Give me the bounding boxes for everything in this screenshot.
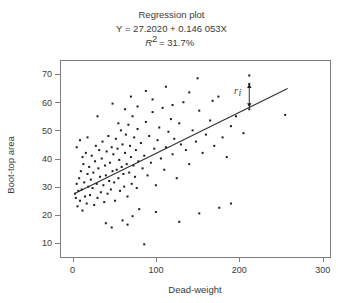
data-point (230, 203, 232, 205)
data-point (87, 136, 89, 138)
data-point (138, 208, 140, 210)
data-point (117, 177, 119, 179)
data-point (107, 193, 109, 195)
data-point (176, 177, 178, 179)
data-point (136, 187, 138, 189)
data-point (119, 190, 121, 192)
data-point (150, 162, 152, 164)
residual-label: r (234, 85, 238, 96)
data-point (172, 153, 174, 155)
data-point (77, 205, 79, 207)
data-point (142, 167, 144, 169)
data-point (112, 103, 114, 105)
chart-canvas: Regression plot Y = 27.2020 + 0.146 053X… (0, 0, 343, 303)
data-point (213, 145, 215, 147)
data-point (198, 212, 200, 214)
data-point (75, 197, 77, 199)
data-point (112, 153, 114, 155)
data-point (102, 184, 104, 186)
data-point (113, 181, 115, 183)
scatter-points (74, 74, 286, 245)
data-point (126, 163, 128, 165)
data-point (123, 186, 125, 188)
data-point (122, 219, 124, 221)
regression-equation: Y = 27.2020 + 0.146 053X (116, 23, 227, 34)
data-point (158, 127, 160, 129)
data-point (195, 141, 197, 143)
data-point (112, 170, 114, 172)
x-axis-ticks: 0100200300 (70, 257, 330, 275)
data-point (132, 115, 134, 117)
data-point (79, 139, 81, 141)
residual-arrow-head-top (247, 84, 251, 88)
data-point (155, 211, 157, 213)
data-point (80, 170, 82, 172)
data-point (145, 121, 147, 123)
y-axis-label: Boot-top area (5, 136, 16, 194)
data-point (145, 90, 147, 92)
data-point (242, 132, 244, 134)
data-point (185, 149, 187, 151)
r-squared-exponent: 2 (152, 33, 157, 44)
data-point (76, 183, 78, 185)
data-point (192, 129, 194, 131)
r-squared-value: = 31.7% (159, 37, 195, 48)
data-point (82, 163, 84, 165)
data-point (78, 177, 80, 179)
r-squared-annotation: R 2 = 31.7% (145, 33, 195, 49)
data-point (129, 145, 131, 147)
data-point (76, 146, 78, 148)
data-point (178, 221, 180, 223)
data-point (198, 110, 200, 112)
data-point (100, 191, 102, 193)
data-point (82, 210, 84, 212)
y-tick-label: 40 (42, 154, 52, 164)
data-point (85, 152, 87, 154)
residual-label-subscript: i (238, 87, 241, 98)
data-point (97, 167, 99, 169)
x-tick-label: 0 (70, 265, 75, 275)
data-point (205, 134, 207, 136)
data-point (152, 111, 154, 113)
data-point (248, 108, 250, 110)
data-point (143, 243, 145, 245)
data-point (128, 172, 130, 174)
data-point (105, 222, 107, 224)
data-point (137, 105, 139, 107)
chart-title: Regression plot (138, 9, 204, 20)
data-point (172, 104, 174, 106)
data-point (83, 181, 85, 183)
data-point (135, 149, 137, 151)
data-point (79, 200, 81, 202)
data-point (86, 203, 88, 205)
data-point (124, 152, 126, 154)
data-point (92, 172, 94, 174)
data-point (116, 169, 118, 171)
y-axis-ticks: 10203040506070 (42, 69, 60, 248)
data-point (153, 148, 155, 150)
data-point (284, 114, 286, 116)
data-point (121, 166, 123, 168)
data-point (147, 174, 149, 176)
y-tick-label: 30 (42, 182, 52, 192)
data-point (202, 152, 204, 154)
data-point (217, 96, 219, 98)
data-point (222, 136, 224, 138)
y-tick-label: 20 (42, 210, 52, 220)
data-point (93, 204, 95, 206)
data-point (97, 197, 99, 199)
data-point (125, 134, 127, 136)
x-tick-label: 300 (315, 265, 330, 275)
data-point (226, 156, 228, 158)
data-point (248, 74, 250, 76)
data-point (133, 136, 135, 138)
data-point (130, 156, 132, 158)
x-axis-label: Dead-weight (168, 284, 222, 295)
data-point (173, 138, 175, 140)
y-tick-label: 70 (42, 69, 52, 79)
data-point (148, 135, 150, 137)
data-point (104, 165, 106, 167)
data-point (188, 91, 190, 93)
data-point (157, 139, 159, 141)
data-point (127, 195, 129, 197)
